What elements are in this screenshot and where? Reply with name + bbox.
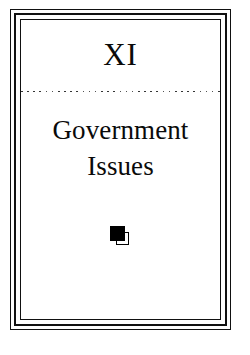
- chapter-title-line-2: Issues: [21, 148, 220, 184]
- page-content: XI: [21, 20, 220, 319]
- dotted-rule-divider: [21, 90, 220, 93]
- double-square-ornament: [21, 226, 220, 252]
- rule-dot: [206, 91, 208, 93]
- rule-dot: [163, 91, 165, 93]
- rule-dot: [39, 91, 41, 93]
- rule-dot: [181, 91, 183, 93]
- rule-dot: [187, 91, 189, 93]
- rule-dot: [101, 91, 103, 93]
- rule-dot: [46, 91, 48, 93]
- chapter-title: Government Issues: [21, 112, 220, 184]
- rule-dot: [169, 91, 171, 93]
- rule-dot: [70, 91, 72, 93]
- rule-dot: [33, 91, 35, 93]
- ornament-mark: [110, 226, 132, 248]
- rule-dot: [64, 91, 66, 93]
- chapter-number: XI: [21, 38, 220, 72]
- rule-dot: [193, 91, 195, 93]
- rule-dot: [138, 91, 140, 93]
- chapter-title-page: XI: [0, 0, 250, 355]
- filled-square-icon: [110, 226, 125, 241]
- rule-dot: [27, 91, 29, 93]
- rule-dot: [89, 91, 91, 93]
- rule-dot: [58, 91, 60, 93]
- rule-dot: [212, 91, 214, 93]
- rule-dot: [156, 91, 158, 93]
- rule-dot: [52, 91, 54, 93]
- rule-dot: [175, 91, 177, 93]
- rule-dot: [113, 91, 115, 93]
- rule-dot: [144, 91, 146, 93]
- rule-dot: [132, 91, 134, 93]
- rule-dot: [218, 91, 220, 93]
- rule-dot: [120, 91, 122, 93]
- rule-dot: [150, 91, 152, 93]
- chapter-title-line-1: Government: [21, 112, 220, 148]
- rule-dot: [83, 91, 85, 93]
- rule-dot: [76, 91, 78, 93]
- rule-dot: [21, 91, 23, 93]
- rule-dot: [107, 91, 109, 93]
- rule-dot: [95, 91, 97, 93]
- rule-dot: [200, 91, 202, 93]
- rule-dot: [126, 91, 128, 93]
